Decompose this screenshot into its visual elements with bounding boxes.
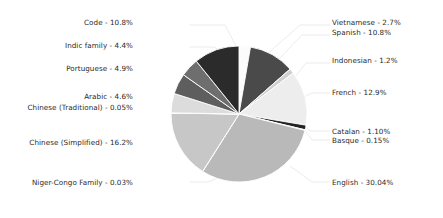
- slice-label-arabic: Arabic - 4.6%: [84, 92, 133, 101]
- slice-label-chinese-traditional: Chinese (Traditional) - 0.05%: [28, 103, 133, 112]
- slice-label-niger-congo-family: Niger-Congo Family - 0.03%: [32, 178, 133, 187]
- slice-label-indic-family: Indic family - 4.4%: [65, 41, 133, 50]
- slice-label-french: French - 12.9%: [332, 88, 387, 97]
- slice-label-english: English - 30.04%: [332, 178, 393, 187]
- slice-label-indonesian: Indonesian - 1.2%: [332, 56, 398, 65]
- slice-label-portuguese: Portuguese - 4.9%: [66, 64, 133, 73]
- slice-label-code: Code - 10.8%: [84, 18, 133, 27]
- slice-label-catalan: Catalan - 1.10%: [332, 127, 390, 136]
- pie-slices: [171, 46, 307, 182]
- slice-label-spanish: Spanish - 10.8%: [332, 28, 391, 37]
- slice-label-basque: Basque - 0.15%: [332, 136, 389, 145]
- pie-chart-figure: Code - 10.8% Indic family - 4.4% Portugu…: [0, 0, 443, 218]
- slice-label-chinese-simplified: Chinese (Simplified) - 16.2%: [29, 138, 133, 147]
- slice-label-vietnamese: Vietnamese - 2.7%: [332, 18, 401, 27]
